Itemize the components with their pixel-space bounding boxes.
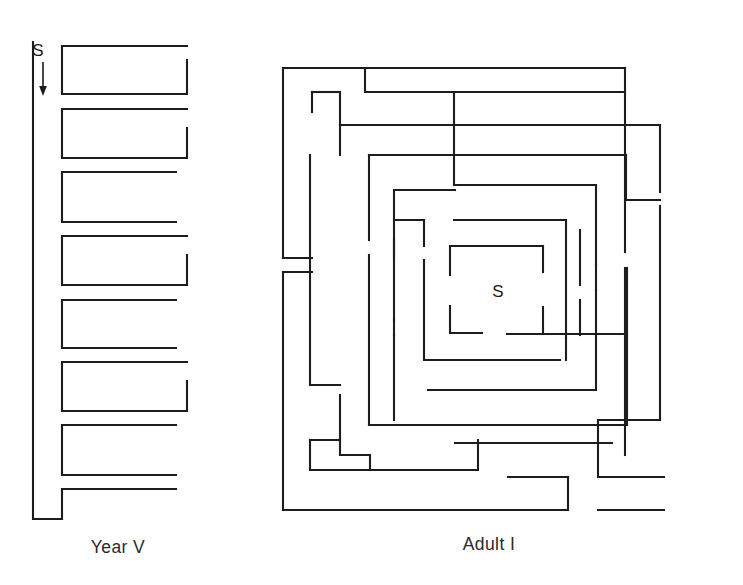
year-v-row-3 [62,172,176,222]
adult-i-ring2-bottom [598,420,660,477]
year-v-row-4 [62,236,187,285]
maze-adult-i: S Adult I [283,68,664,554]
year-v-row-6 [62,362,187,411]
year-v-row-2 [62,109,187,158]
year-v-row-7 [62,425,176,475]
adult-i-ring1-top [365,68,625,92]
year-v-row-5 [62,300,176,348]
adult-i-ring3-elbow [454,185,596,265]
adult-i-ring5-bottomleft [424,260,560,360]
year-v-caption: Year V [91,537,145,557]
adult-i-ring2-left-bracket [340,395,370,455]
adult-i-inner-left-bottom [450,306,482,333]
maze-year-v: S Year V [32,41,187,557]
year-v-start-arrow-icon [39,62,47,96]
adult-i-caption: Adult I [463,534,515,554]
figure-maze-pair: S Year V [0,0,743,585]
year-v-row-8 [62,489,176,519]
year-v-start-label: S [32,41,43,60]
year-v-spine [33,42,62,519]
adult-i-start-label: S [492,282,503,301]
year-v-row-1 [62,46,187,94]
maze-figure-svg: S Year V [0,0,743,585]
adult-i-ring5-topleft [394,220,424,246]
adult-i-wall-g [310,440,478,470]
